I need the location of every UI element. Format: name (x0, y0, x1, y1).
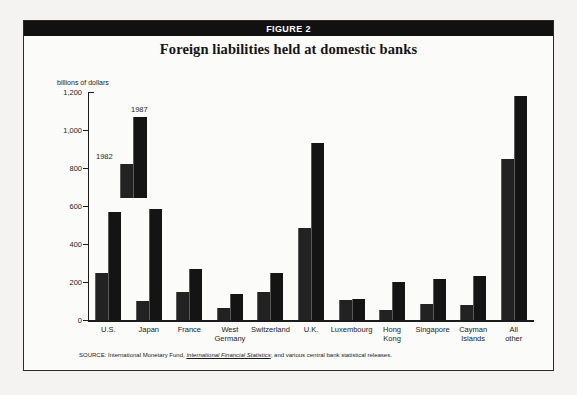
y-axis-tick-label: 1,000 (48, 126, 82, 135)
source-prefix: SOURCE: International Monetary Fund, (79, 352, 186, 358)
legend-label-1987: 1987 (131, 105, 148, 114)
y-axis-tick (83, 130, 89, 131)
source-publication: International Financial Statistics (186, 352, 270, 358)
bar (176, 292, 189, 321)
bar (257, 292, 270, 320)
bar (420, 304, 433, 320)
x-axis-category-label-line: Kong (366, 334, 419, 343)
bar (108, 212, 121, 320)
x-axis-category-label-line: All (487, 325, 540, 334)
y-axis-tick (83, 206, 89, 207)
bar (460, 305, 473, 320)
y-axis-tick (83, 168, 89, 169)
bar (189, 269, 202, 320)
bar (270, 273, 283, 320)
y-axis-tick-label: 1,200 (48, 88, 82, 97)
y-axis-tick (88, 92, 94, 93)
legend-swatch-1982 (120, 164, 134, 198)
y-axis-tick (83, 282, 89, 283)
bar (339, 300, 352, 320)
y-axis-tick (83, 244, 89, 245)
x-axis-category-label-line: other (487, 334, 540, 343)
y-axis-tick-label: 200 (48, 278, 82, 287)
y-axis-tick-label: 400 (48, 240, 82, 249)
bar (433, 279, 446, 320)
bar (501, 159, 514, 321)
bar (217, 308, 230, 320)
y-axis-tick-label: 600 (48, 202, 82, 211)
y-axis-tick (83, 320, 89, 321)
source-note: SOURCE: International Monetary Fund, Int… (79, 351, 533, 359)
figure-panel: FIGURE 2 Foreign liabilities held at dom… (23, 20, 554, 371)
bar (473, 276, 486, 320)
y-axis-tick-label: 800 (48, 164, 82, 173)
source-suffix: ; and various central bank statistical r… (271, 352, 392, 358)
bar (95, 273, 108, 321)
legend-label-1982: 1982 (96, 152, 113, 161)
legend-swatch-1987 (133, 117, 147, 199)
bar (392, 282, 405, 320)
y-axis-unit-label: billions of dollars (57, 79, 109, 86)
y-axis-tick-label: 0 (48, 316, 82, 325)
bar (379, 310, 392, 320)
bar (352, 299, 365, 320)
bar (311, 143, 324, 320)
x-axis-line (88, 320, 534, 322)
chart-plot-area: billions of dollars 02004006008001,0001,… (24, 21, 555, 372)
x-axis-category-label-line: Germany (204, 334, 257, 343)
bar (230, 294, 243, 320)
bar (136, 301, 149, 320)
x-axis-category-label: Allother (487, 325, 540, 343)
bar (149, 209, 162, 320)
bar (514, 96, 527, 320)
bar (298, 228, 311, 320)
